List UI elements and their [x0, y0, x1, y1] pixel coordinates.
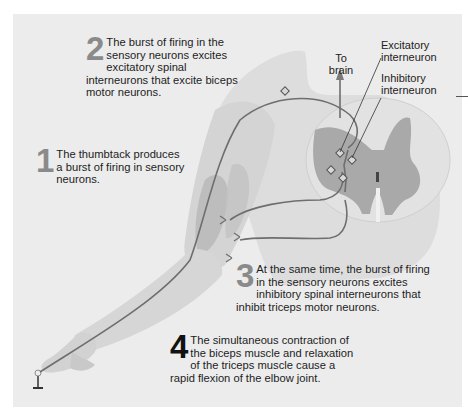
step-3-caption: 3 At the same time, the burst of firing …: [236, 263, 436, 313]
step-1-text: The thumbtack produces a burst of firing…: [56, 148, 184, 185]
step-3-text: At the same time, the burst of firing in…: [236, 263, 430, 313]
to-brain-line-1: To: [323, 52, 359, 64]
to-brain-label: To brain: [323, 52, 359, 77]
step-4-number: 4: [170, 334, 188, 360]
inhibitory-line-1: Inhibitory: [381, 72, 437, 84]
excitatory-interneuron-label: Excitatory interneuron: [381, 39, 437, 64]
excitatory-line-1: Excitatory: [381, 39, 437, 51]
to-brain-line-2: brain: [323, 64, 359, 76]
spinal-cord-cross-section: [306, 98, 450, 222]
step-4-text: The simultaneous contraction of the bice…: [170, 334, 353, 384]
step-3-number: 3: [236, 263, 254, 289]
step-2-number: 2: [86, 36, 104, 62]
excitatory-line-2: interneuron: [381, 51, 437, 63]
inhibitory-interneuron-label: Inhibitory interneuron: [381, 72, 437, 97]
step-1-caption: 1 The thumbtack produces a burst of firi…: [36, 148, 186, 186]
step-4-caption: 4 The simultaneous contraction of the bi…: [170, 334, 360, 384]
inhibitory-line-2: interneuron: [381, 84, 437, 96]
thumbtack-icon: [33, 370, 43, 388]
step-1-number: 1: [36, 148, 54, 174]
step-2-caption: 2 The burst of firing in the sensory neu…: [86, 36, 242, 99]
step-2-text: The burst of firing in the sensory neuro…: [86, 36, 238, 98]
